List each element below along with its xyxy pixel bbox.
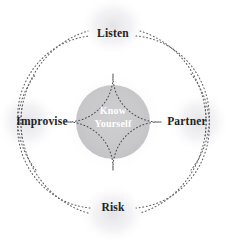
node-label-partner[interactable]: Partner [154,116,220,128]
center-label-line1: Know [78,104,148,117]
diagram-canvas: Know Yourself Listen Partner Risk Improv… [0,0,226,244]
node-label-improvise[interactable]: Improvise [6,116,78,128]
node-label-listen[interactable]: Listen [0,28,226,40]
center-label: Know Yourself [78,104,148,130]
center-label-line2: Yourself [78,117,148,130]
node-label-risk[interactable]: Risk [0,202,226,214]
halo-risk [79,184,147,244]
